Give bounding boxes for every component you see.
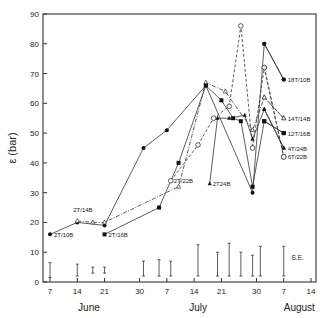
series-label: 2T/10B [54, 232, 73, 238]
filled-square-marker [262, 119, 266, 123]
y-tick-label: 50 [30, 129, 39, 138]
x-tick-label: 14 [190, 287, 199, 296]
filled-circle-marker [48, 232, 52, 236]
x-tick-label: 30 [252, 287, 261, 296]
y-tick-label: 60 [30, 99, 39, 108]
open-circle-marker [227, 104, 232, 109]
x-tick-label: 7 [282, 287, 287, 296]
y-axis-label: ε (bar) [6, 132, 18, 163]
open-triangle-marker [223, 89, 227, 93]
open-circle-marker [250, 146, 255, 151]
open-circle-marker [211, 116, 216, 121]
series-label: 6T/22B [288, 154, 307, 160]
open-triangle-marker [262, 95, 266, 99]
filled-circle-marker [141, 146, 145, 150]
y-tick-label: 0 [35, 278, 40, 287]
series-label: 4T/24B [288, 146, 307, 152]
filled-square-marker [231, 116, 235, 120]
series-label: 2T/16B [109, 232, 128, 238]
x-axis: 71421307142130714JuneJulyAugust [48, 278, 316, 313]
series-line [50, 44, 284, 235]
y-tick-label: 70 [30, 70, 39, 79]
x-tick-label: 21 [217, 287, 226, 296]
x-tick-label: 14 [307, 287, 316, 296]
open-circle-marker [196, 143, 201, 148]
open-triangle-marker [75, 218, 79, 222]
y-tick-label: 80 [30, 40, 39, 49]
standard-error-bars: S.E. [49, 243, 304, 277]
series-markers [48, 24, 286, 237]
filled-circle-marker [282, 78, 286, 82]
filled-square-marker [157, 206, 161, 210]
series-line [264, 68, 283, 157]
series-line [105, 86, 284, 235]
series-label: 14T/14B [288, 116, 311, 122]
filled-triangle-marker [262, 107, 266, 111]
y-tick-label: 10 [30, 248, 39, 257]
x-tick-label: 30 [135, 287, 144, 296]
filled-triangle-marker [208, 181, 212, 185]
filled-circle-marker [251, 191, 255, 195]
x-tick-label: 7 [48, 287, 53, 296]
filled-circle-marker [165, 128, 169, 132]
filled-square-marker [239, 119, 243, 123]
y-tick-label: 40 [30, 159, 39, 168]
series-label: 12T/16B [288, 131, 311, 137]
plot-border [43, 14, 316, 282]
filled-square-marker [251, 185, 255, 189]
y-tick-label: 30 [30, 189, 39, 198]
month-label: June [78, 302, 100, 313]
series-label: 2T/22B [174, 178, 193, 184]
open-circle-marker [239, 24, 244, 29]
open-triangle-marker [204, 80, 208, 84]
epsilon-seasonal-chart: 0102030405060708090 71421307142130714Jun… [0, 0, 323, 318]
open-triangle-marker [177, 184, 181, 188]
x-tick-label: 21 [100, 287, 109, 296]
x-tick-label: 7 [165, 287, 170, 296]
filled-triangle-marker [243, 113, 247, 117]
filled-square-marker [219, 98, 223, 102]
se-label: S.E. [292, 254, 304, 261]
open-circle-marker [168, 178, 173, 183]
series-line [264, 121, 283, 133]
series-label: 18T/10B [288, 77, 311, 83]
open-circle-marker [262, 65, 267, 70]
filled-square-marker [103, 232, 107, 236]
month-label: August [284, 302, 315, 313]
y-tick-label: 20 [30, 218, 39, 227]
x-tick-label: 14 [73, 287, 82, 296]
filled-circle-marker [262, 42, 266, 46]
plot-frame [43, 14, 316, 282]
series-label: 2T24B [213, 181, 231, 187]
month-label: July [189, 302, 207, 313]
filled-square-marker [204, 83, 208, 87]
series-line [264, 44, 283, 80]
open-circle-marker [281, 155, 286, 160]
series-line [77, 83, 283, 223]
y-axis: 0102030405060708090 [30, 10, 47, 287]
series-label: 2T/14B [73, 207, 92, 213]
filled-square-marker [282, 131, 286, 135]
filled-square-marker [177, 161, 181, 165]
y-tick-label: 90 [30, 10, 39, 19]
